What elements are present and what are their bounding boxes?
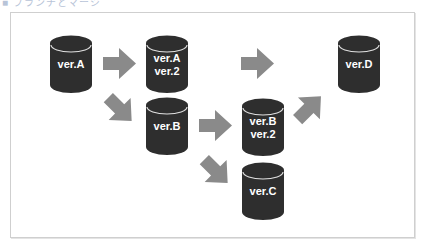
arrow-right-icon xyxy=(199,110,233,142)
node-label: ver.A xyxy=(50,58,92,70)
node-ver-d: ver.D xyxy=(338,35,380,93)
arrow-up-right-icon xyxy=(293,91,327,125)
node-label: ver.D xyxy=(338,58,380,70)
node-label-line2: ver.2 xyxy=(146,65,188,77)
node-ver-a-ver-2: ver.A ver.2 xyxy=(146,35,188,93)
node-ver-b-ver-2: ver.B ver.2 xyxy=(242,98,284,156)
node-label-line1: ver.B xyxy=(242,115,284,127)
node-ver-a: ver.A xyxy=(50,35,92,93)
database-cylinder-icon xyxy=(242,98,284,156)
node-label-line1: ver.A xyxy=(146,52,188,64)
arrow-down-right-icon xyxy=(103,93,137,127)
arrow-down-right-icon xyxy=(199,155,233,189)
node-ver-b: ver.B xyxy=(146,97,188,155)
node-label: ver.B xyxy=(146,120,188,132)
node-ver-c: ver.C xyxy=(242,162,284,220)
database-cylinder-icon xyxy=(146,35,188,93)
node-label-line2: ver.2 xyxy=(242,128,284,140)
node-label: ver.C xyxy=(242,185,284,197)
figure-caption: ■ ブランチとマージ xyxy=(2,0,101,9)
arrow-right-icon xyxy=(103,48,137,80)
arrow-right-icon xyxy=(241,48,275,80)
